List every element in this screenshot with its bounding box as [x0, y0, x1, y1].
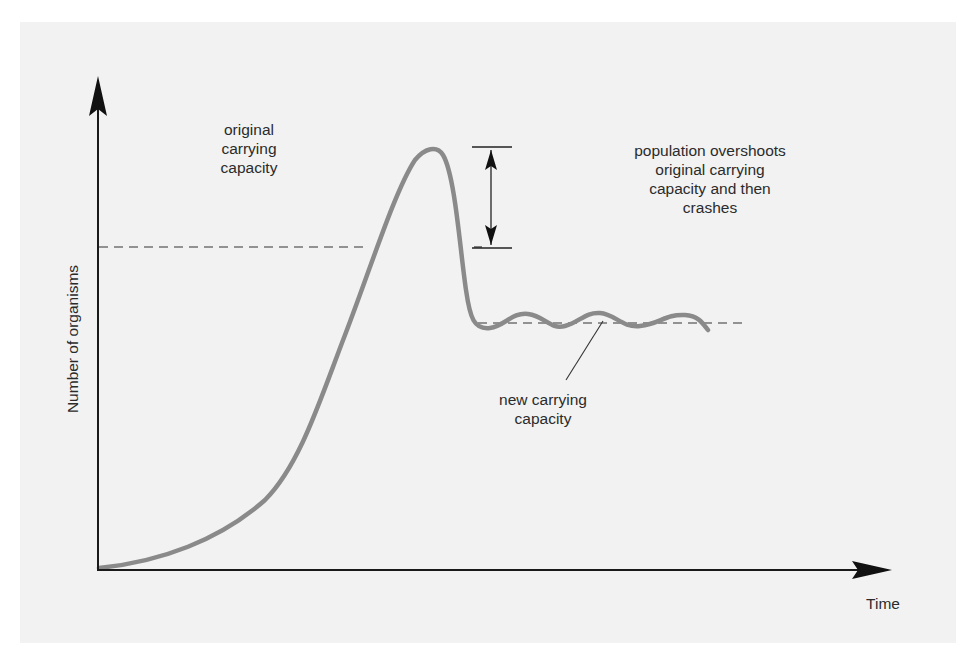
- overshoot-label: population overshoots original carrying …: [590, 141, 830, 217]
- x-axis-label: Time: [848, 594, 918, 613]
- population-overshoot-diagram: [0, 0, 970, 650]
- y-axis-label: Number of organisms: [64, 264, 82, 414]
- original-capacity-label: original carrying capacity: [184, 120, 314, 177]
- new-capacity-leader-line: [566, 321, 603, 380]
- x-axis-arrow-icon: [852, 561, 892, 579]
- new-capacity-label: new carrying capacity: [478, 390, 608, 428]
